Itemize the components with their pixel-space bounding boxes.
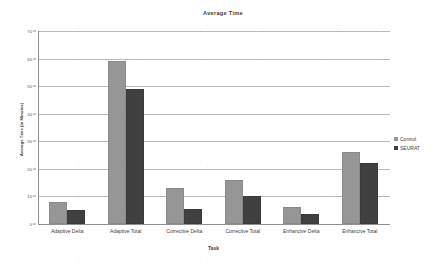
y-tick-mark: [33, 141, 36, 142]
bar-seurat: [126, 89, 144, 224]
y-tick-label: 50: [27, 84, 32, 89]
chart-legend: ControlSEURAT: [394, 136, 444, 154]
bar-seurat: [67, 210, 85, 224]
x-tick-label: Adaptive Delta: [38, 228, 97, 234]
y-tick-mark: [33, 86, 36, 87]
bar-control: [49, 202, 67, 224]
x-tick-label: Adaptive Total: [97, 228, 156, 234]
x-axis-tick-labels: Adaptive DeltaAdaptive TotalCorrective D…: [38, 228, 389, 234]
legend-swatch-icon: [394, 146, 398, 150]
bar-seurat: [360, 163, 378, 224]
y-tick-mark: [33, 168, 36, 169]
y-axis-title: Average Time (in Minutes): [19, 70, 24, 190]
bar-control: [108, 61, 126, 224]
y-tick-label: 60: [27, 56, 32, 61]
y-tick-mark: [33, 31, 36, 32]
chart-title: Average Time: [0, 10, 446, 16]
y-tick-label: 0: [30, 222, 32, 227]
bar-control: [342, 152, 360, 224]
bar-group: [155, 31, 214, 224]
bar-seurat: [184, 209, 202, 224]
bar-control: [225, 180, 243, 224]
bar-control: [166, 188, 184, 224]
y-tick-label: 30: [27, 139, 32, 144]
y-tick-mark: [33, 113, 36, 114]
x-tick-label: Corrective Total: [214, 228, 273, 234]
legend-label: Control: [400, 136, 416, 142]
x-tick-label: Enhancive Total: [331, 228, 390, 234]
legend-swatch-icon: [394, 137, 398, 141]
x-tick-label: Enhancive Delta: [272, 228, 331, 234]
legend-item: SEURAT: [394, 145, 444, 151]
bar-seurat: [243, 196, 261, 224]
bar-group: [97, 31, 156, 224]
y-tick-mark: [33, 196, 36, 197]
bar-group: [272, 31, 331, 224]
x-tick-label: Corrective Delta: [155, 228, 214, 234]
y-tick-label: 70: [27, 29, 32, 34]
y-tick-label: 10: [27, 194, 32, 199]
y-tick-label: 40: [27, 111, 32, 116]
legend-label: SEURAT: [400, 145, 420, 151]
bar-group: [38, 31, 97, 224]
chart-figure: Average Time 706050403020100 Adaptive De…: [0, 0, 446, 268]
bar-group: [331, 31, 390, 224]
legend-item: Control: [394, 136, 444, 142]
y-tick-mark: [33, 58, 36, 59]
x-axis-title: Task: [38, 245, 389, 251]
bar-groups: [38, 31, 389, 224]
bar-seurat: [301, 214, 319, 224]
y-tick-label: 20: [27, 166, 32, 171]
y-tick-mark: [33, 224, 36, 225]
bar-group: [214, 31, 273, 224]
bar-control: [283, 207, 301, 224]
